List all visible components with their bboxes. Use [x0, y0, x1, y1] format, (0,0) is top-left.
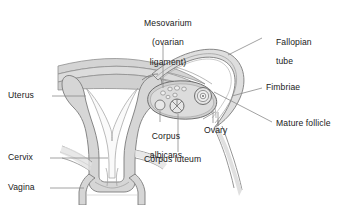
label-mesovarium: Mesovarium (ovarian ligament) — [118, 9, 208, 78]
label-mesovarium-line3: ligament) — [150, 57, 186, 67]
label-corpus-albicans-line1: Corpus — [152, 131, 180, 141]
label-uterus: Uterus — [8, 91, 34, 101]
ovary-shape — [148, 81, 217, 119]
cervix-folds — [60, 146, 92, 171]
label-corpus-albicans: Corpus albicans — [133, 122, 189, 171]
label-vagina: Vagina — [8, 183, 35, 193]
label-fallopian-tube-line1: Fallopian — [276, 37, 312, 47]
mature-follicle-shape — [195, 88, 212, 105]
label-mesovarium-line1: Mesovarium — [144, 18, 192, 28]
label-fallopian-tube-line2: tube — [276, 56, 293, 66]
label-mature-follicle: Mature follicle — [276, 119, 331, 129]
label-cervix: Cervix — [8, 153, 33, 163]
label-corpus-albicans-line2: albicans — [150, 150, 182, 160]
label-fallopian-tube: Fallopian tube — [266, 28, 312, 77]
diagram-canvas: Mesovarium (ovarian ligament) Fallopian … — [0, 0, 344, 205]
label-ovary: Ovary — [204, 126, 227, 136]
corpus-luteum-shape — [170, 99, 184, 113]
corpus-albicans-shape — [155, 100, 165, 110]
label-mesovarium-line2: (ovarian — [152, 37, 184, 47]
leader-fallopian-tube — [228, 38, 262, 55]
label-fimbriae: Fimbriae — [266, 83, 300, 93]
